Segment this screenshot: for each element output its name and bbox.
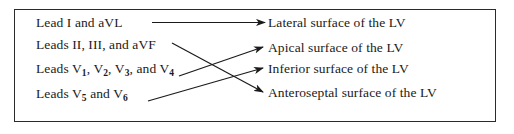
right-label-anteroseptal: Anteroseptal surface of the LV [268,86,437,100]
ecg-lead-mapping-figure: Lead I and aVL Leads II, III, and aVF Le… [0,0,514,134]
left-label-leads-ii-iii-avf: Leads II, III, and aVF [36,38,156,52]
left-label-leads-v1-v4: Leads V1, V2, V3, and V4 [36,62,174,76]
right-label-lateral: Lateral surface of the LV [268,16,406,30]
right-label-apical: Apical surface of the LV [268,41,403,55]
left-label-leads-v5-v6: Leads V5 and V6 [36,87,128,101]
right-label-inferior: Inferior surface of the LV [268,62,409,76]
left-label-lead-i-avl: Lead I and aVL [36,16,122,30]
